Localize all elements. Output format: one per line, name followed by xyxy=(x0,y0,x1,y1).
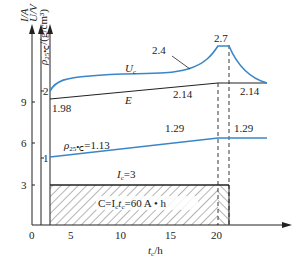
uc-label: Uc xyxy=(125,62,136,76)
axis-i xyxy=(29,24,35,225)
tick-x-20: 20 xyxy=(211,229,223,241)
e-line xyxy=(50,83,267,99)
x-axis-label: tc/h xyxy=(148,244,163,258)
value-1-29-a: 1.29 xyxy=(165,122,185,134)
tick-x-15: 15 xyxy=(165,229,177,241)
tick-rho-1: 1 xyxy=(43,152,49,164)
e-label: E xyxy=(124,94,132,106)
capacity-label: C=Ictc=60 A • h xyxy=(98,197,167,211)
capacity-area-tail xyxy=(218,185,229,225)
value-2-4: 2.4 xyxy=(152,44,166,56)
value-2-7: 2.7 xyxy=(214,32,228,44)
tick-i-6: 6 xyxy=(21,137,27,149)
chart: I/A U/V ρ25℃/(g/cm³) 9 6 3 2 1 0 5 10 15… xyxy=(0,0,301,268)
value-2-14-b: 2.14 xyxy=(240,85,260,97)
value-1-29-b: 1.29 xyxy=(234,122,254,134)
value-2-14-a: 2.14 xyxy=(173,88,193,100)
rho-start-label: ρ25℃=1.13 xyxy=(63,139,110,153)
tick-x-10: 10 xyxy=(115,229,127,241)
tick-x-0: 0 xyxy=(29,229,35,241)
value-1-98: 1.98 xyxy=(52,102,72,114)
axis-rho-label: ρ25℃/(g/cm³) xyxy=(37,9,51,66)
tick-rho-2: 2 xyxy=(43,85,49,97)
tick-i-9: 9 xyxy=(21,96,27,108)
tick-x-5: 5 xyxy=(68,229,74,241)
tick-i-3: 3 xyxy=(21,179,27,191)
ic-label: Ic=3 xyxy=(116,168,136,182)
